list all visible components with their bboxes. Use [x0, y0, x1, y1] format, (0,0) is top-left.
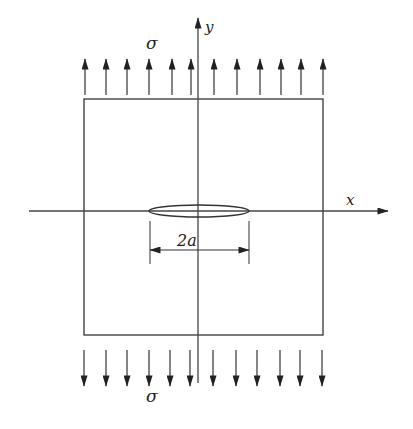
- y-axis-label: y: [204, 18, 214, 36]
- top-stress-label: σ: [146, 33, 158, 53]
- crack-plate-diagram: σ σ y x 2a: [0, 0, 413, 429]
- top-stress-arrows: [85, 59, 323, 95]
- bottom-stress-label: σ: [146, 386, 158, 406]
- crack-length-label: 2a: [176, 231, 197, 250]
- x-axis-label: x: [346, 191, 355, 209]
- bottom-stress-arrows: [84, 350, 322, 386]
